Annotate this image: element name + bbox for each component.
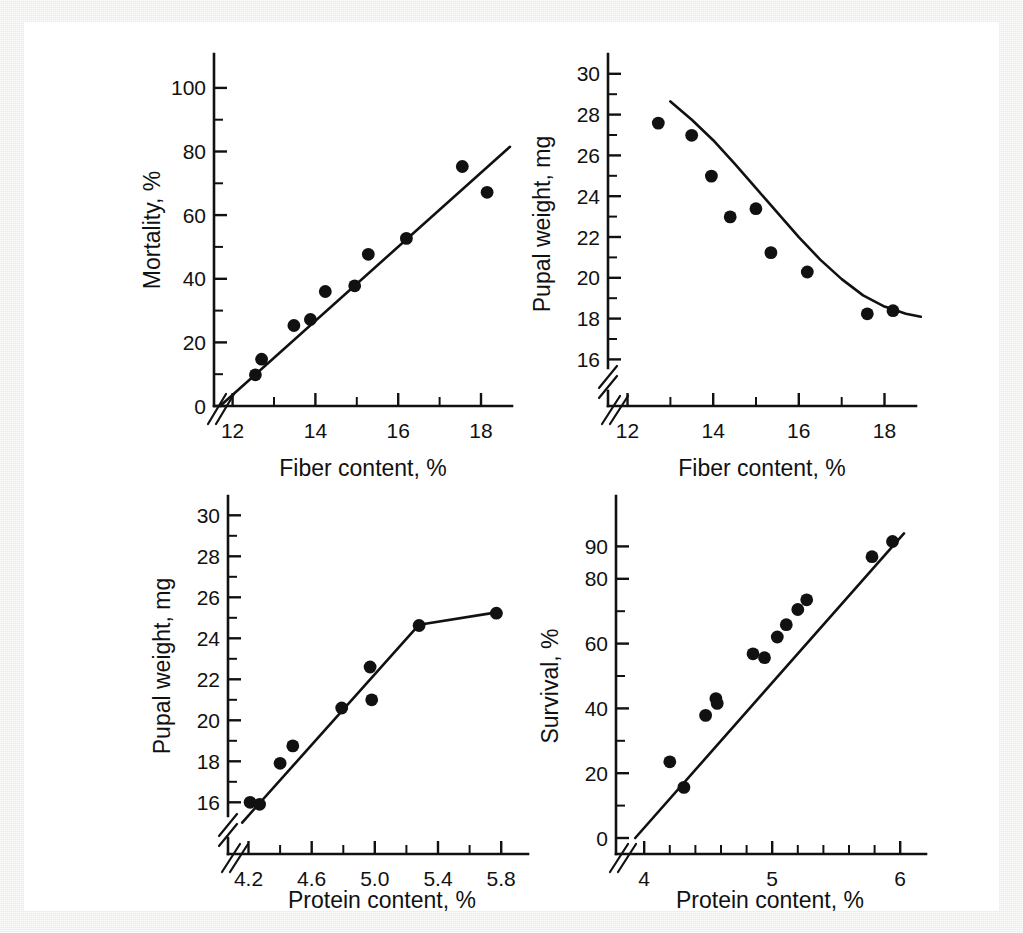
data-point	[861, 307, 874, 320]
y-axis-title: Pupal weight, mg	[149, 578, 175, 754]
x-axis-break-mark	[610, 844, 636, 872]
data-point	[724, 211, 737, 224]
data-point	[286, 740, 299, 753]
y-tick-label: 40	[183, 267, 206, 290]
y-tick-label: 28	[577, 103, 600, 126]
data-point	[456, 160, 469, 173]
y-tick-marks	[228, 515, 241, 802]
data-point	[249, 368, 262, 381]
data-point	[886, 535, 899, 548]
data-point	[685, 129, 698, 142]
x-tick-labels: 12 14 16 18	[616, 419, 896, 442]
x-tick-label: 12	[221, 419, 244, 442]
data-point	[253, 798, 266, 811]
y-tick-label: 0	[596, 827, 608, 850]
chart-pupal-weight-vs-protein: 30 28 26 24 22 20 18 16	[132, 486, 532, 911]
x-tick-label: 16	[387, 419, 410, 442]
data-point	[705, 170, 718, 183]
y-tick-label: 20	[183, 331, 206, 354]
data-point	[866, 550, 879, 563]
regression-line	[635, 533, 904, 838]
y-tick-label: 26	[197, 586, 220, 609]
data-point	[481, 186, 494, 199]
y-tick-label: 26	[577, 144, 600, 167]
y-tick-label: 90	[585, 535, 608, 558]
x-tick-label: 14	[702, 419, 726, 442]
x-tick-marks	[644, 841, 900, 854]
x-axis-title: Fiber content, %	[279, 455, 446, 481]
y-tick-label: 28	[197, 545, 220, 568]
data-point	[699, 709, 712, 722]
data-point	[365, 693, 378, 706]
x-tick-label: 18	[873, 419, 896, 442]
y-axis-title: Pupal weight, mg	[529, 136, 555, 312]
y-tick-label: 22	[197, 668, 220, 691]
fitted-curve	[670, 101, 921, 316]
data-point	[490, 607, 503, 620]
data-point	[413, 619, 426, 632]
data-point	[765, 246, 778, 259]
y-tick-label: 24	[577, 185, 601, 208]
y-tick-label: 16	[197, 791, 220, 814]
data-point	[747, 647, 760, 660]
x-tick-label: 5.8	[487, 867, 516, 890]
y-tick-labels: 30 28 26 24 22 20 18 16	[577, 62, 601, 371]
panel-survival-vs-protein: 90 80 60 40 20 0	[520, 486, 930, 911]
y-tick-label: 30	[577, 62, 600, 85]
data-point	[801, 266, 814, 279]
y-tick-label: 0	[194, 395, 206, 418]
y-tick-label: 100	[171, 76, 206, 99]
y-tick-label: 30	[197, 504, 220, 527]
x-tick-label: 14	[304, 419, 328, 442]
y-tick-label: 18	[197, 750, 220, 773]
data-point	[319, 285, 332, 298]
data-point	[335, 702, 348, 715]
y-tick-label: 60	[585, 632, 608, 655]
data-point	[364, 661, 377, 674]
y-axis-title: Survival, %	[537, 628, 563, 743]
x-tick-label: 12	[616, 419, 639, 442]
x-axis-title: Protein content, %	[676, 887, 864, 911]
panel-pupal-weight-vs-fiber: 30 28 26 24 22 20 18 16	[512, 46, 922, 486]
x-tick-marks	[249, 841, 502, 854]
data-point	[255, 353, 268, 366]
data-points	[244, 607, 503, 811]
x-tick-label: 6	[894, 867, 906, 890]
panel-mortality-vs-fiber: 100 80 60 40 20 0 12	[128, 46, 518, 486]
data-point	[791, 603, 804, 616]
x-tick-marks	[233, 393, 481, 406]
x-tick-label: 18	[469, 419, 492, 442]
data-point	[800, 593, 813, 606]
x-tick-marks	[628, 393, 885, 406]
fitted-segments	[242, 612, 496, 822]
panel-pupal-weight-vs-protein: 30 28 26 24 22 20 18 16	[132, 486, 532, 911]
page-texture-background: 100 80 60 40 20 0 12	[0, 0, 1023, 933]
x-tick-label: 16	[787, 419, 810, 442]
data-point	[288, 319, 301, 332]
y-tick-label: 20	[577, 266, 600, 289]
x-axis-title: Fiber content, %	[678, 455, 845, 481]
chart-pupal-weight-vs-fiber: 30 28 26 24 22 20 18 16	[512, 46, 922, 486]
data-point	[758, 651, 771, 664]
x-axis-title: Protein content, %	[288, 887, 476, 911]
y-tick-label: 80	[183, 140, 206, 163]
y-tick-labels: 100 80 60 40 20 0	[171, 76, 206, 417]
y-tick-label: 18	[577, 307, 600, 330]
figure-plate: 100 80 60 40 20 0 12	[24, 22, 999, 911]
data-point	[678, 781, 691, 794]
chart-survival-vs-protein: 90 80 60 40 20 0	[520, 486, 930, 911]
x-tick-label: 4.2	[234, 867, 263, 890]
data-points	[652, 117, 900, 320]
chart-mortality-vs-fiber: 100 80 60 40 20 0 12	[128, 46, 518, 486]
y-tick-label: 24	[197, 627, 221, 650]
data-point	[750, 202, 763, 215]
y-tick-marks	[214, 88, 227, 406]
x-tick-label: 4	[638, 867, 650, 890]
x-tick-labels: 12 14 16 18	[221, 419, 493, 442]
data-point	[652, 117, 665, 130]
y-tick-label: 60	[183, 204, 206, 227]
data-point	[400, 232, 413, 245]
y-tick-label: 20	[197, 709, 220, 732]
data-point	[780, 618, 793, 631]
y-tick-label: 40	[585, 697, 608, 720]
